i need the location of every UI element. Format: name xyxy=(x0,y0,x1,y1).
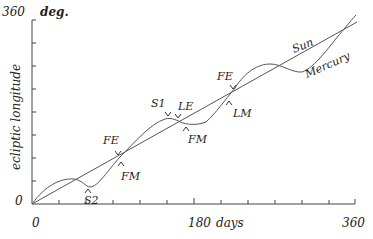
x-end-label: 360 xyxy=(342,216,365,230)
y-axis-label: ecliptic longitude xyxy=(9,64,23,170)
lm-label: LM xyxy=(232,107,252,120)
chart: 360 deg. ecliptic longitude 0 0 180 days… xyxy=(0,0,373,239)
y-zero-label: 0 xyxy=(15,194,23,208)
fm1-label: FM xyxy=(120,170,141,183)
le-label: LE xyxy=(177,100,193,113)
fm2-label: FM xyxy=(187,133,208,146)
mercury-label: Mercury xyxy=(302,49,353,81)
x-unit-label: days xyxy=(216,216,244,230)
x-zero-label: 0 xyxy=(32,216,40,230)
fe2-label: FE xyxy=(216,70,233,83)
y-top-label: 360 xyxy=(2,5,25,19)
y-ticks xyxy=(32,20,36,181)
s2-label: S2 xyxy=(84,194,99,207)
x-ticks xyxy=(59,198,355,204)
y-unit-label: deg. xyxy=(40,5,69,19)
x-mid-label: 180 xyxy=(188,216,211,230)
fe1-label: FE xyxy=(102,134,119,147)
s1-label: S1 xyxy=(151,97,166,110)
